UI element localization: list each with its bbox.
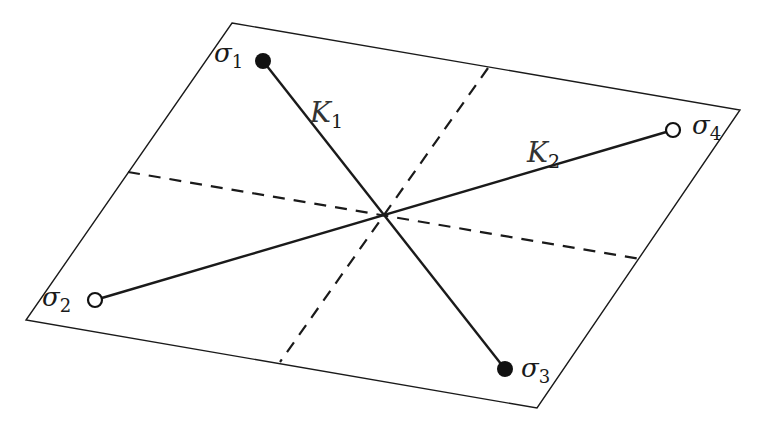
label-k1: K1 [309, 96, 343, 132]
label-sigma1: σ1 [214, 38, 243, 72]
label-sigma4: σ4 [692, 110, 721, 144]
label-k2: K2 [526, 136, 560, 172]
diagram-canvas: K1 K2 σ1 σ2 σ3 σ4 [0, 0, 762, 428]
point-sigma1 [255, 53, 271, 69]
label-sigma3: σ3 [521, 353, 550, 387]
point-sigma3 [497, 361, 513, 377]
point-sigma4 [666, 123, 680, 137]
label-sigma2: σ2 [42, 282, 71, 316]
point-sigma2 [88, 293, 102, 307]
segment-k2 [95, 130, 673, 300]
